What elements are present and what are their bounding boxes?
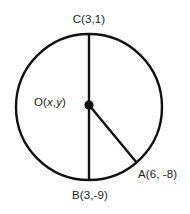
label-point-c: C(3,1) [0,13,178,26]
label-point-c-text: C(3,1) [73,13,106,25]
label-point-b: B(3,-9) [0,189,180,202]
radius-line-oa [89,105,137,163]
label-point-b-text: B(3,-9) [72,189,108,201]
circle-diagram-svg [0,0,190,214]
label-point-o: O(x,y) [34,96,66,109]
geometry-figure: C(3,1) O(x,y) A(6, -8) B(3,-9) [0,0,190,214]
label-point-o-suffix: ) [62,96,66,108]
label-point-a: A(6, -8) [138,168,177,181]
center-point-dot [84,100,93,109]
label-point-a-text: A(6, -8) [138,168,177,180]
label-point-o-prefix: O( [34,96,47,108]
